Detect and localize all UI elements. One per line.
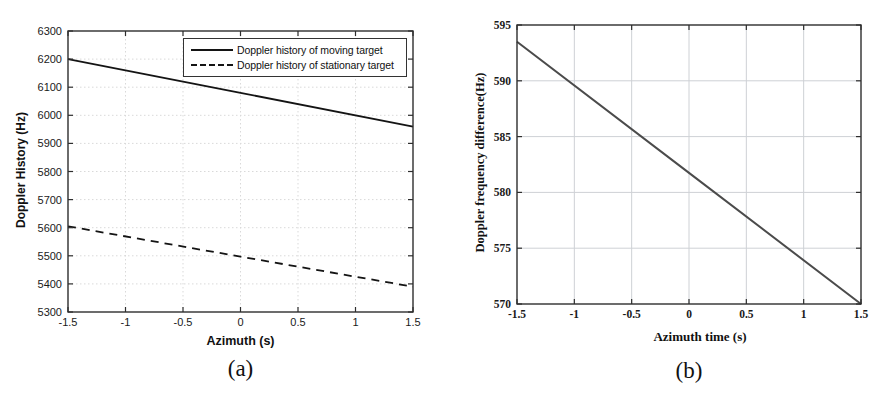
x-tick-label: 1 [352,316,358,328]
legend-label-moving-target: Doppler history of moving target [237,44,383,56]
two-panel-figure: -1.5-1-0.500.511.55300540055005600570058… [0,0,893,407]
y-tick-label: 570 [494,298,512,310]
y-tick-label: 5600 [38,222,62,234]
y-tick-label: 595 [494,19,512,31]
legend-entry-moving-target: Doppler history of moving target [191,44,404,56]
y-tick-label: 6100 [38,81,62,93]
legend-entry-stationary-target: Doppler history of stationary target [191,59,404,71]
y-tick-label: 6200 [38,53,62,65]
x-tick-label: -0.5 [623,308,641,320]
y-tick-label: 580 [494,186,512,198]
y-tick-label: 5700 [38,194,62,206]
x-tick-label: -0.5 [174,316,193,328]
dashed-line-sample [191,64,233,66]
x-tick-label: 1.5 [405,316,420,328]
caption-a: (a) [68,356,413,382]
chart-a-legend: Doppler history of moving target Doppler… [183,38,407,77]
x-tick-label: 1.5 [854,308,869,320]
y-tick-label: 590 [494,75,512,87]
chart-b-y-axis-label: Doppler frequency difference(Hz) [473,48,488,278]
x-tick-label: 0.5 [739,308,754,320]
caption-b: (b) [517,358,861,384]
x-tick-label: -1 [121,316,131,328]
chart-a-y-axis-label: Doppler History (Hz) [14,60,28,280]
y-tick-label: 5500 [38,250,62,262]
x-tick-label: 0 [686,308,692,320]
y-tick-label: 5900 [38,137,62,149]
x-tick-label: 0 [237,316,243,328]
y-tick-label: 6300 [38,25,62,37]
chart-a-x-axis-label: Azimuth (s) [68,334,413,348]
x-tick-label: 1 [801,308,807,320]
y-tick-label: 6000 [38,109,62,121]
y-tick-label: 5400 [38,278,62,290]
y-tick-label: 5800 [38,166,62,178]
y-tick-label: 585 [494,131,512,143]
x-tick-label: -1 [570,308,580,320]
y-tick-label: 5300 [38,306,62,318]
x-tick-label: 0.5 [290,316,305,328]
legend-label-stationary-target: Doppler history of stationary target [237,59,394,71]
solid-line-sample [191,49,233,51]
y-tick-label: 575 [494,242,512,254]
chart-b-x-axis-label: Azimuth time (s) [528,329,872,345]
